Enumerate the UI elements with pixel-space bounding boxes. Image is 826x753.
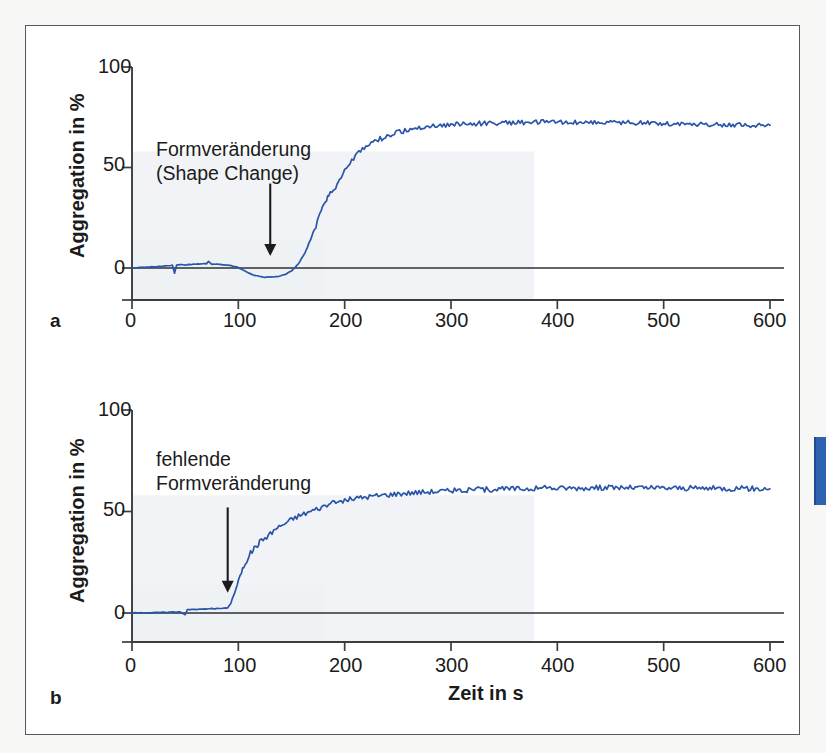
chart-b-ytick-0: 0: [114, 601, 125, 625]
chart-a-panel-letter: a: [50, 310, 61, 332]
chart-a-xtick-300: 300: [435, 309, 468, 333]
chart-b-xtick-500: 500: [647, 654, 680, 678]
chart-b-xtick-300: 300: [435, 654, 468, 678]
chart-b-ylabel: Aggregation in %: [66, 439, 90, 603]
chart-b-xtick-400: 400: [541, 654, 574, 678]
chart-b-xtick-600: 600: [753, 654, 786, 678]
chart-a-ytick-100: 100: [98, 55, 131, 79]
chart-a-xtick-100: 100: [223, 309, 256, 333]
chart-panel-a: 100 50 0 Aggregation in % 0 100 200 300 …: [0, 0, 826, 376]
chart-b-ytick-100: 100: [98, 398, 131, 422]
shared-xlabel: Zeit in s: [448, 682, 524, 706]
chart-a-ylabel: Aggregation in %: [66, 94, 90, 258]
chart-b-annotation-line2: Formveränderung: [156, 472, 311, 495]
chart-panel-b: 100 50 0 Aggregation in % 0 100 200 300 …: [0, 370, 826, 753]
chart-a-xtick-200: 200: [329, 309, 362, 333]
chart-a-xtick-0: 0: [125, 309, 136, 333]
chart-a-xtick-400: 400: [541, 309, 574, 333]
chart-b-xtick-0: 0: [125, 654, 136, 678]
chart-b-xtick-100: 100: [223, 654, 256, 678]
chart-b-svg: [0, 370, 826, 753]
chart-a-ytick-0: 0: [114, 256, 125, 280]
chart-a-annotation-line2: (Shape Change): [156, 162, 299, 185]
chart-a-annotation-line1: Formveränderung: [156, 138, 311, 161]
chart-b-ytick-50: 50: [103, 498, 125, 522]
chart-a-xtick-600: 600: [753, 309, 786, 333]
chart-b-annotation-line1: fehlende: [156, 448, 231, 471]
chart-b-panel-letter: b: [50, 687, 62, 709]
chart-a-ytick-50: 50: [103, 153, 125, 177]
chart-b-xtick-200: 200: [329, 654, 362, 678]
chart-a-xtick-500: 500: [647, 309, 680, 333]
